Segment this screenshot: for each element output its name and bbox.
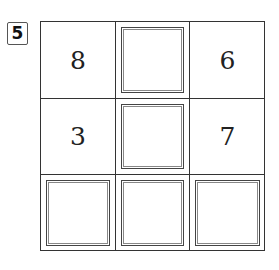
grid-cell-r2-c1[interactable]: [116, 175, 190, 251]
grid-cell-r1-c1[interactable]: [116, 99, 190, 175]
grid-cell-r0-c2: 6: [190, 22, 265, 99]
answer-box[interactable]: [121, 27, 184, 93]
grid-cell-r1-c0: 3: [41, 99, 116, 175]
grid-cell-r1-c2: 7: [190, 99, 265, 175]
grid-cell-r0-c0: 8: [41, 22, 116, 99]
grid-cell-r2-c0[interactable]: [41, 175, 116, 251]
grid-cell-r2-c2[interactable]: [190, 175, 265, 251]
problem-number-badge: 5: [7, 22, 28, 45]
answer-box[interactable]: [121, 180, 184, 246]
answer-box[interactable]: [195, 180, 260, 246]
answer-box[interactable]: [121, 104, 184, 169]
grid-cell-r0-c1[interactable]: [116, 22, 190, 99]
answer-box[interactable]: [46, 180, 110, 246]
number-grid: 8 6 3 7: [40, 21, 265, 251]
